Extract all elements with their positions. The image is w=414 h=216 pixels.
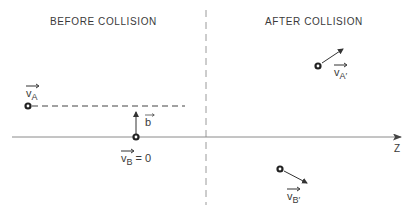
velocity-a-after-label: vA′: [334, 67, 347, 81]
impact-parameter-label: b: [145, 117, 151, 128]
after-collision-heading: AFTER COLLISION: [265, 16, 363, 27]
velocity-b-before-label: vB = 0: [121, 153, 151, 167]
vector-arrow-icon: [287, 186, 301, 192]
collision-diagram: [0, 0, 414, 216]
particle-a-before: [24, 102, 31, 109]
vector-arrow-icon: [121, 148, 135, 154]
vector-arrow-icon: [26, 83, 40, 89]
velocity-a-after-arrow-icon: [322, 49, 343, 63]
vector-arrow-icon: [334, 62, 348, 68]
particle-b-before: [132, 133, 139, 140]
z-axis-label: Z: [394, 143, 400, 154]
velocity-b-after-arrow-icon: [284, 171, 307, 183]
before-collision-heading: BEFORE COLLISION: [50, 16, 157, 27]
velocity-b-after-label: vB′: [287, 191, 300, 205]
velocity-a-before-label: vA: [26, 88, 38, 102]
vector-arrow-icon: [145, 112, 155, 118]
particle-b-after: [276, 165, 283, 172]
particle-a-after: [314, 62, 321, 69]
